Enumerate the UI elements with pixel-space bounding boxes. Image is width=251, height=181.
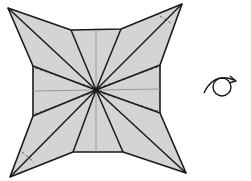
turn-over-icon: Turn over	[204, 76, 236, 96]
center-point	[94, 88, 98, 92]
folded-model	[8, 4, 186, 177]
origami-diagram: Turn over	[0, 0, 251, 181]
